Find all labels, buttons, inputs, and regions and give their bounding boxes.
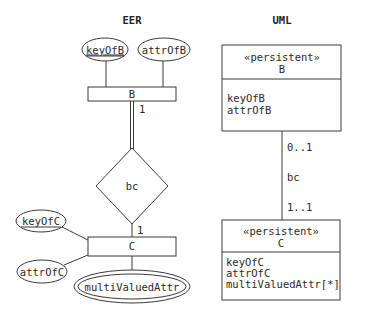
eer-entity-b[interactable]: B (88, 87, 176, 101)
class-attribute: attrOfB (227, 104, 271, 116)
class-name: B (279, 63, 285, 75)
attr-label: attrOfB (142, 44, 186, 56)
eer-heading: EER (123, 14, 143, 26)
eer-attr-attrofc[interactable]: attrOfC (17, 260, 67, 283)
stereotype: «persistent» (244, 51, 320, 63)
class-attribute: multiValuedAttr[*] (226, 278, 340, 290)
class-attribute: keyOfB (227, 92, 265, 104)
eer-entity-c[interactable]: C (88, 237, 176, 256)
eer-attr-keyofc[interactable]: keyOfC (16, 210, 66, 232)
diagram-canvas: EER keyOfB attrOfB B 1 bc 1 C keyOfC att… (0, 0, 366, 321)
stereotype: «persistent» (243, 225, 319, 237)
attr-label: multiValuedAttr (85, 281, 180, 293)
attr-label: keyOfB (86, 44, 124, 56)
entity-label: B (129, 88, 135, 100)
association-name: bc (287, 171, 300, 183)
attr-label: keyOfC (22, 215, 60, 227)
mult-c: 1..1 (287, 201, 312, 213)
eer-attr-multivalued[interactable]: multiValuedAttr (74, 270, 190, 303)
connector-keyofc (62, 227, 88, 240)
card-b: 1 (139, 103, 145, 115)
mult-b: 0..1 (287, 141, 312, 153)
entity-label: C (129, 240, 135, 252)
connector-attrofc (64, 255, 88, 265)
eer-relationship-bc[interactable]: bc (96, 148, 168, 224)
relationship-label: bc (126, 180, 139, 192)
uml-class-c[interactable]: «persistent» C keyOfC attrOfC multiValue… (222, 220, 340, 300)
eer-attr-attrofb[interactable]: attrOfB (138, 38, 190, 61)
uml-class-b[interactable]: «persistent» B keyOfB attrOfB (222, 45, 341, 131)
attr-label: attrOfC (20, 266, 64, 278)
class-name: C (278, 237, 284, 249)
uml-heading: UML (273, 14, 292, 26)
eer-attr-keyofb[interactable]: keyOfB (82, 38, 128, 61)
card-c: 1 (137, 224, 143, 236)
